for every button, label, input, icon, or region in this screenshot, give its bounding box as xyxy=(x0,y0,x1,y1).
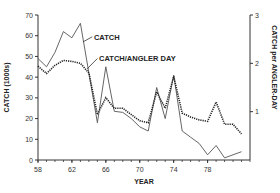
y-tick-label: 0 xyxy=(29,157,33,164)
leader-catch xyxy=(83,37,92,42)
y-tick-label: 70 xyxy=(25,12,33,19)
x-tick-label: 66 xyxy=(102,166,110,173)
x-tick-label: 74 xyxy=(170,166,178,173)
series-catch xyxy=(38,23,242,158)
axes: 010203040506070586266707478123YEARCATCH … xyxy=(3,12,278,186)
y-tick-label: 30 xyxy=(25,94,33,101)
series-lines xyxy=(38,23,242,158)
x-tick-label: 58 xyxy=(34,166,42,173)
y2-tick-label: 3 xyxy=(255,12,259,19)
x-tick-label: 78 xyxy=(204,166,212,173)
annotation-label: CATCH/ANGLER DAY xyxy=(99,54,176,63)
y-tick-label: 20 xyxy=(25,115,33,122)
x-axis-title: YEAR xyxy=(134,178,153,185)
line-chart: 010203040506070586266707478123YEARCATCH … xyxy=(0,0,280,193)
y2-axis-title: CATCH per ANGLER-DAY xyxy=(270,25,278,110)
annotation-label: CATCH xyxy=(94,33,120,42)
x-tick-label: 62 xyxy=(68,166,76,173)
y-axis-title: CATCH (1000s) xyxy=(3,62,11,112)
leader-ratio xyxy=(87,59,97,69)
x-tick-label: 70 xyxy=(136,166,144,173)
y-tick-label: 10 xyxy=(25,136,33,143)
y2-tick-label: 1 xyxy=(255,108,259,115)
chart: 010203040506070586266707478123YEARCATCH … xyxy=(0,0,280,193)
annotations: CATCHCATCH/ANGLER DAY xyxy=(83,33,176,69)
series-catch-angler-day xyxy=(38,60,242,133)
y-tick-label: 40 xyxy=(25,74,33,81)
y-tick-label: 60 xyxy=(25,32,33,39)
y-tick-label: 50 xyxy=(25,53,33,60)
y2-tick-label: 2 xyxy=(255,60,259,67)
